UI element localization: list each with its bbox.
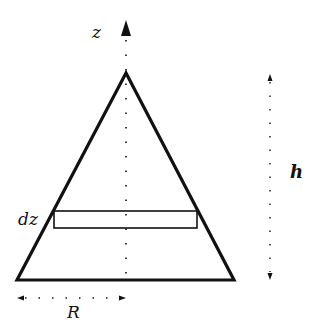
cone-diagram: z h dz R	[0, 0, 317, 334]
r-left-arrowhead-icon	[17, 296, 24, 301]
radius-label: R	[66, 302, 80, 322]
z-axis-label: z	[91, 22, 102, 42]
z-axis-arrowhead-icon	[121, 20, 131, 36]
height-label: h	[290, 161, 303, 182]
h-top-arrowhead-icon	[268, 74, 273, 81]
slice-rectangle	[54, 211, 197, 228]
slice-thickness-label: dz	[18, 209, 39, 229]
h-bottom-arrowhead-icon	[268, 273, 273, 280]
cone-outline	[17, 73, 234, 280]
r-right-arrowhead-icon	[119, 296, 126, 301]
